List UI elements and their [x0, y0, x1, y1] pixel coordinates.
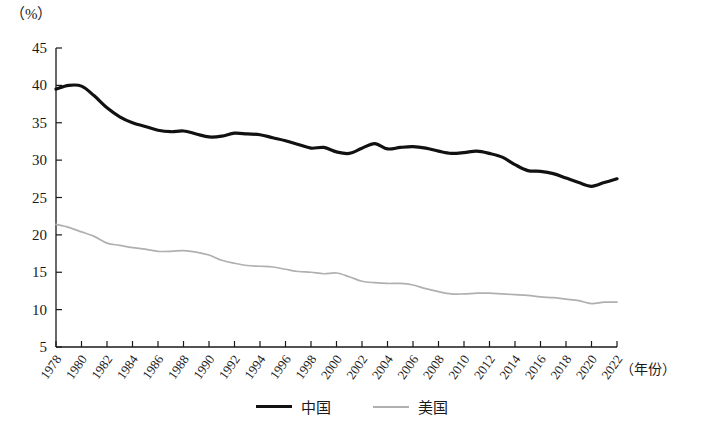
x-axis-title: （年份）: [620, 358, 676, 378]
x-axis-tick-label: 1992: [216, 352, 243, 382]
legend-line-swatch-usa: [373, 406, 409, 408]
x-axis-tick-label: 2012: [471, 352, 498, 382]
x-axis-tick-label: 1996: [267, 352, 294, 382]
x-axis-tick-label: 1986: [139, 352, 166, 382]
y-axis-tick-label: 45: [32, 40, 47, 56]
x-axis-tick-label: 2000: [318, 352, 345, 382]
x-axis-tick-label: 1988: [165, 352, 192, 382]
y-axis-tick-label: 15: [32, 264, 47, 280]
y-axis-tick-label: 35: [32, 115, 47, 131]
y-axis-tick-label: 10: [32, 302, 47, 318]
legend-line-swatch-china: [256, 405, 292, 408]
legend-item-usa: 美国: [373, 396, 448, 417]
y-axis-tick-label: 25: [32, 190, 47, 206]
x-axis-tick-label: 2016: [522, 352, 549, 382]
x-axis-tick-label: 2014: [496, 352, 523, 382]
legend-label-china: 中国: [301, 396, 331, 417]
y-axis-tick-label: 30: [32, 152, 47, 168]
y-axis-tick-label: 40: [32, 77, 47, 93]
x-axis-tick-label: 2002: [343, 352, 370, 382]
x-axis-tick-label: 1984: [114, 352, 141, 382]
legend-label-usa: 美国: [418, 396, 448, 417]
x-axis-tick-label: 2020: [573, 352, 600, 382]
line-chart-plot: 4540353025201510519781980198219841986198…: [0, 0, 703, 443]
axis-lines: [56, 48, 617, 347]
x-axis-tick-label: 2010: [445, 352, 472, 382]
x-axis-tick-label: 1994: [241, 352, 268, 382]
y-axis-tick-label: 5: [40, 339, 48, 355]
x-axis-tick-label: 1990: [190, 352, 217, 382]
chart-legend: 中国 美国: [0, 396, 703, 417]
x-axis-tick-label: 1982: [88, 352, 115, 382]
x-axis-tick-label: 1980: [63, 352, 90, 382]
x-axis-tick-label: 2008: [420, 352, 447, 382]
series-line-usa: [56, 224, 617, 303]
x-axis-tick-label: 2004: [369, 352, 396, 382]
chart-container: （%） 454035302520151051978198019821984198…: [0, 0, 703, 443]
x-axis-tick-label: 1978: [37, 352, 64, 382]
x-axis-tick-label: 2006: [394, 352, 421, 382]
x-axis-tick-label: 1998: [292, 352, 319, 382]
y-axis-tick-label: 20: [32, 227, 47, 243]
x-axis-tick-label: 2018: [547, 352, 574, 382]
legend-item-china: 中国: [256, 396, 331, 417]
series-line-china: [56, 85, 617, 186]
